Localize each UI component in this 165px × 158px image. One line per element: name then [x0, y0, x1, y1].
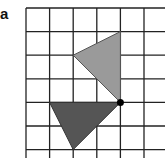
grid-lines [26, 8, 165, 158]
shapes [50, 32, 121, 150]
grid-diagram [0, 0, 165, 158]
points [117, 99, 124, 106]
center-of-rotation [117, 99, 124, 106]
